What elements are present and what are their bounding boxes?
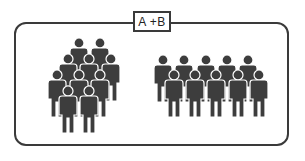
right-lineup-group	[154, 55, 268, 117]
left-crowd-group	[48, 38, 120, 133]
people-illustration	[0, 0, 305, 161]
